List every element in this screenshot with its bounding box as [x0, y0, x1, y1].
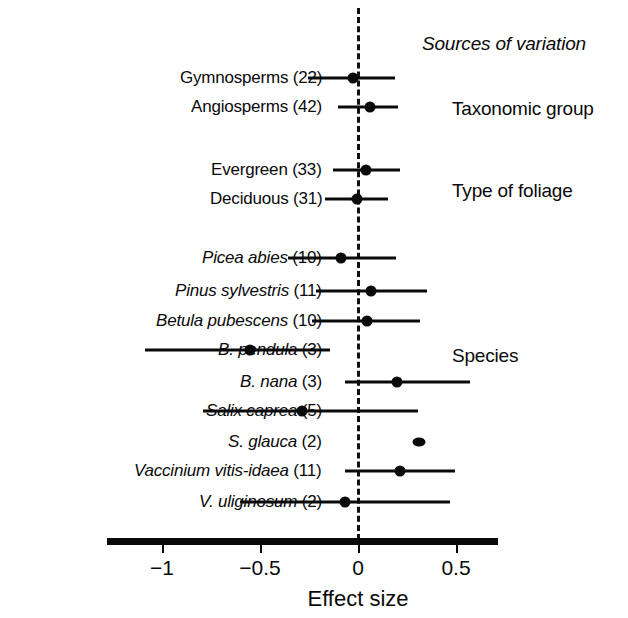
- confidence-interval-line: [345, 381, 469, 384]
- row-label: Evergreen (33): [211, 160, 322, 180]
- effect-size-point: [352, 194, 363, 205]
- sources-of-variation-heading: Sources of variation: [422, 33, 586, 55]
- x-axis-title: Effect size: [307, 586, 408, 612]
- forest-plot-figure: Sources of variation Taxonomic groupType…: [0, 0, 628, 618]
- x-axis-tick-label: 0.5: [441, 556, 470, 580]
- group-heading: Type of foliage: [452, 180, 573, 202]
- x-axis-tick: [358, 544, 360, 553]
- x-axis-tick-label: −1: [150, 556, 174, 580]
- effect-size-point: [360, 165, 371, 176]
- effect-size-point: [361, 316, 372, 327]
- x-axis-tick-label: 0: [352, 556, 364, 580]
- group-heading: Taxonomic group: [452, 98, 594, 120]
- species-name: Betula pubescens: [156, 311, 288, 330]
- confidence-interval-line: [203, 410, 418, 413]
- effect-size-point: [297, 406, 308, 417]
- effect-size-point: [364, 102, 375, 113]
- x-axis-tick-label: −0.5: [239, 556, 280, 580]
- effect-size-point: [340, 497, 351, 508]
- row-label: S. glauca (2): [228, 432, 322, 452]
- zero-reference-line: [357, 8, 360, 540]
- row-label: Vaccinium vitis-idaea (11): [134, 461, 322, 481]
- effect-size-point: [395, 466, 406, 477]
- row-label: B. nana (3): [240, 372, 322, 392]
- row-label: Deciduous (31): [210, 189, 322, 209]
- species-name: B. nana: [240, 372, 297, 391]
- x-axis-tick: [456, 544, 458, 553]
- row-label: Angiosperms (42): [191, 97, 322, 117]
- row-label: Gymnosperms (22): [180, 68, 322, 88]
- effect-size-point: [336, 253, 347, 264]
- row-label: Pinus sylvestris (11): [175, 281, 322, 301]
- species-name: Pinus sylvestris: [175, 281, 289, 300]
- effect-size-point: [348, 73, 359, 84]
- row-label: Betula pubescens (10): [156, 311, 322, 331]
- effect-size-point: [412, 438, 425, 447]
- effect-size-point: [365, 286, 376, 297]
- species-name: Vaccinium vitis-idaea: [134, 461, 289, 480]
- species-name: S. glauca: [228, 432, 297, 451]
- x-axis-tick: [162, 544, 164, 553]
- confidence-interval-line: [145, 349, 329, 352]
- species-name: Picea abies: [202, 248, 288, 267]
- group-heading: Species: [452, 345, 518, 367]
- effect-size-point: [245, 345, 256, 356]
- x-axis-tick: [260, 544, 262, 553]
- effect-size-point: [392, 377, 403, 388]
- x-axis-bar: [107, 538, 498, 545]
